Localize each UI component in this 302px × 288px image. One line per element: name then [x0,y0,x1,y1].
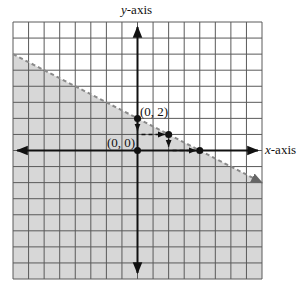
coordinate-graph [0,0,302,288]
y-axis-label: y-axis [121,3,152,17]
point-label-origin: (0, 0) [107,136,135,150]
point-label-0-2: (0, 2) [140,105,168,119]
x-axis-label-text: -axis [271,142,296,157]
point-marker [165,131,172,138]
y-axis-label-text: -axis [127,2,152,17]
x-axis-label: x-axis [265,143,296,157]
point-marker [196,147,203,154]
